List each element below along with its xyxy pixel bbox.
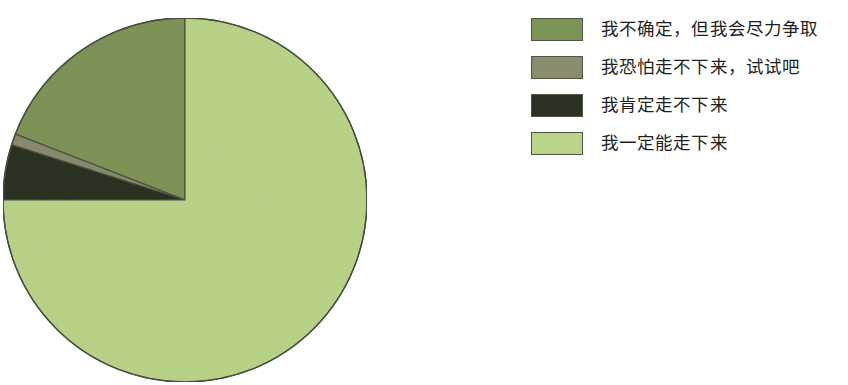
pie-chart-page: 我不确定，但我会尽力争取 我恐怕走不下来，试试吧 我肯定走不下来 我一定能走下来 [0,0,848,385]
legend-item-0[interactable]: 我不确定，但我会尽力争取 [531,14,818,44]
legend-label-2: 我肯定走不下来 [601,94,728,117]
legend-swatch-3 [531,132,583,155]
legend-label-0: 我不确定，但我会尽力争取 [601,18,818,41]
legend-item-3[interactable]: 我一定能走下来 [531,128,728,158]
legend-item-2[interactable]: 我肯定走不下来 [531,90,728,120]
pie-chart-area [0,0,420,385]
pie-slices-group [3,18,367,382]
legend-swatch-0 [531,18,583,41]
legend-swatch-1 [531,56,583,79]
pie-chart-svg [0,0,420,385]
legend-item-1[interactable]: 我恐怕走不下来，试试吧 [531,52,800,82]
legend-swatch-2 [531,94,583,117]
legend-label-1: 我恐怕走不下来，试试吧 [601,56,800,79]
legend-label-3: 我一定能走下来 [601,132,728,155]
chart-legend: 我不确定，但我会尽力争取 我恐怕走不下来，试试吧 我肯定走不下来 我一定能走下来 [531,8,848,173]
